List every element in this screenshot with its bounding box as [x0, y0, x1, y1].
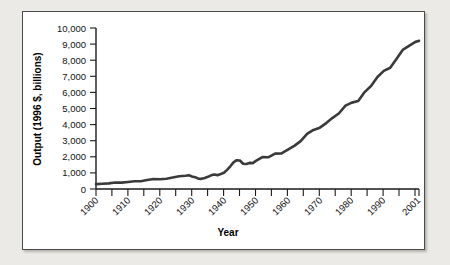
- y-axis-tick-labels: 10,000 9,000 8,000 7,000 6,000 5,000 4,0…: [57, 23, 86, 195]
- x-tick-label: 1970: [302, 195, 325, 218]
- x-tick-label: 1940: [206, 195, 229, 218]
- y-tick-label: 9,000: [62, 39, 86, 50]
- x-tick-label: 2001: [400, 195, 423, 218]
- chart-figure-frame: 10,000 9,000 8,000 7,000 6,000 5,000 4,0…: [22, 11, 425, 250]
- x-tick-label: 1960: [270, 195, 293, 218]
- y-tick-label: 10,000: [57, 23, 86, 34]
- x-tick-label: 1910: [110, 195, 133, 218]
- x-tick-label: 1900: [78, 195, 101, 218]
- y-tick-label: 2,000: [62, 151, 86, 162]
- y-axis-ticks: [90, 28, 96, 189]
- y-tick-label: 3,000: [62, 135, 86, 146]
- x-tick-label: 1990: [365, 195, 388, 218]
- y-tick-label: 4,000: [62, 119, 86, 130]
- y-axis-title: Output (1996 $, billions): [32, 52, 43, 165]
- x-axis-ticks: [96, 189, 419, 196]
- y-tick-label: 0: [81, 184, 86, 195]
- x-tick-label: 1980: [333, 195, 356, 218]
- y-tick-label: 7,000: [62, 71, 86, 82]
- x-axis-title: Year: [217, 227, 238, 238]
- y-tick-label: 6,000: [62, 87, 86, 98]
- y-tick-label: 8,000: [62, 55, 86, 66]
- y-tick-label: 1,000: [62, 167, 86, 178]
- x-tick-label: 1950: [238, 195, 261, 218]
- x-axis-tick-labels: 1900 1910 1920 1930 1940 1950 1960 1970 …: [78, 195, 423, 218]
- y-tick-label: 5,000: [62, 103, 86, 114]
- x-tick-label: 1920: [142, 195, 165, 218]
- x-tick-label: 1930: [174, 195, 197, 218]
- screenshot-root: 10,000 9,000 8,000 7,000 6,000 5,000 4,0…: [0, 0, 450, 265]
- output-data-line: [96, 41, 419, 184]
- output-vs-year-line-chart: 10,000 9,000 8,000 7,000 6,000 5,000 4,0…: [23, 12, 423, 248]
